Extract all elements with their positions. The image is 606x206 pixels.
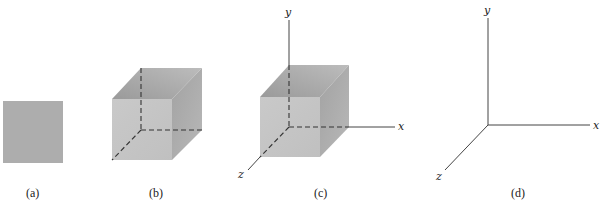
cube-axes-diagram: (a) (b) y x z (c) y — [0, 0, 606, 206]
z-axis-label: z — [435, 170, 442, 183]
x-axis-label: x — [593, 119, 600, 132]
z-axis-line — [445, 125, 488, 170]
square-shape — [3, 101, 63, 163]
y-axis-label: y — [284, 6, 292, 19]
panel-b-caption: (b) — [149, 186, 163, 200]
z-axis-line — [248, 157, 260, 170]
panel-d-caption: (d) — [511, 186, 525, 200]
panel-b: (b) — [112, 68, 202, 200]
panel-a: (a) — [3, 101, 63, 200]
panel-d: y x z (d) — [435, 4, 600, 200]
y-axis-label: y — [483, 4, 491, 17]
x-axis-label: x — [398, 120, 405, 133]
panel-c-caption: (c) — [314, 186, 327, 200]
z-axis-label: z — [237, 168, 244, 181]
panel-a-caption: (a) — [26, 186, 39, 200]
panel-c: y x z (c) — [237, 6, 405, 200]
